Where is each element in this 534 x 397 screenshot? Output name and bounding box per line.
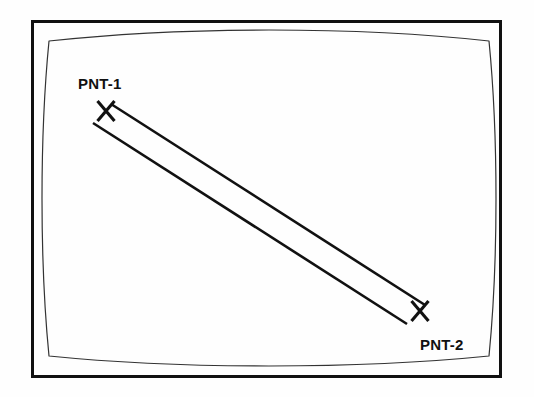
diagram-svg: PNT-1 PNT-2 [0,0,534,397]
label-pnt-2: PNT-2 [420,336,464,353]
diagram-canvas: PNT-1 PNT-2 [0,0,534,397]
label-pnt-1: PNT-1 [78,75,122,92]
